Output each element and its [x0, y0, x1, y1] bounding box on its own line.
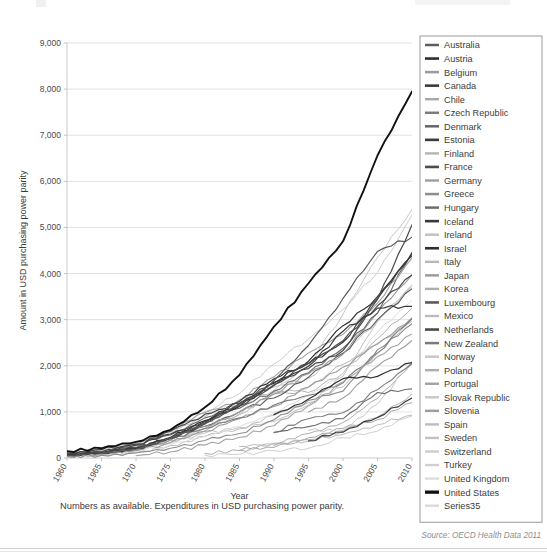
- legend-label: Austria: [444, 54, 473, 64]
- chart-footnote: Numbers as available. Expenditures in US…: [60, 501, 344, 511]
- legend-label: Slovenia: [444, 406, 480, 416]
- series-line: [67, 322, 412, 457]
- y-axis-tick-label: 3,000: [40, 315, 62, 325]
- bottom-divider: [0, 548, 547, 549]
- legend-label: France: [444, 162, 473, 172]
- y-axis-tick-label: 9,000: [40, 38, 62, 48]
- legend-label: Netherlands: [444, 325, 494, 335]
- x-axis-tick-label: 1975: [154, 462, 172, 484]
- legend-label: Poland: [444, 366, 473, 376]
- x-axis-tick-label: 2000: [327, 462, 345, 484]
- legend-label: Italy: [444, 257, 461, 267]
- legend-label: Series35: [444, 501, 480, 511]
- legend-label: Canada: [444, 81, 477, 91]
- legend-label: Germany: [444, 176, 482, 186]
- legend-label: New Zealand: [444, 339, 498, 349]
- series-line: [67, 306, 412, 456]
- y-axis-title: Amount in USD purchasing power parity: [18, 170, 28, 331]
- bottom-divider-secondary: [0, 551, 547, 552]
- legend-label: Norway: [444, 352, 476, 362]
- legend-label: Czech Republic: [444, 108, 509, 118]
- legend-label: Australia: [444, 40, 481, 50]
- y-axis-tick-label: 0: [56, 453, 61, 463]
- y-axis-tick-label: 2,000: [40, 361, 62, 371]
- legend-label: Korea: [444, 284, 469, 294]
- legend-label: Belgium: [444, 68, 478, 78]
- x-axis-tick-label: 1990: [258, 462, 276, 484]
- y-axis-tick-label: 1,000: [40, 407, 62, 417]
- y-axis-tick-label: 5,000: [40, 222, 62, 232]
- x-axis-tick-label: 1995: [292, 462, 310, 484]
- x-axis-title: Year: [230, 491, 248, 501]
- legend-label: United States: [444, 488, 500, 498]
- legend-label: United Kingdom: [444, 474, 510, 484]
- x-axis-tick-label: 1965: [85, 462, 103, 484]
- x-axis-tick-label: 1960: [51, 462, 69, 484]
- legend-label: Chile: [444, 95, 465, 105]
- y-axis-tick-label: 7,000: [40, 130, 62, 140]
- legend-label: Denmark: [444, 122, 482, 132]
- legend-label: Turkey: [444, 460, 472, 470]
- legend-label: Greece: [444, 189, 474, 199]
- x-axis-tick-label: 1970: [120, 462, 138, 484]
- x-axis-tick-label: 1985: [223, 462, 241, 484]
- legend-label: Spain: [444, 420, 468, 430]
- series-group: [67, 91, 412, 457]
- chart-source: Source: OECD Health Data 2011: [421, 531, 541, 540]
- line-chart-canvas: 01,0002,0003,0004,0005,0006,0007,0008,00…: [0, 0, 547, 554]
- y-axis-tick-label: 4,000: [40, 269, 62, 279]
- legend-label: Portugal: [444, 379, 478, 389]
- legend-label: Japan: [444, 271, 469, 281]
- legend-label: Switzerland: [444, 447, 492, 457]
- legend-label: Slovak Republic: [444, 393, 510, 403]
- y-axis-tick-label: 8,000: [40, 84, 62, 94]
- legend-label: Israel: [444, 244, 466, 254]
- chart-figure: 01,0002,0003,0004,0005,0006,0007,0008,00…: [0, 0, 547, 554]
- y-axis-tick-label: 6,000: [40, 176, 62, 186]
- legend-label: Ireland: [444, 230, 472, 240]
- series-line: [67, 91, 412, 452]
- legend-label: Mexico: [444, 311, 473, 321]
- x-axis-tick-label: 2010: [396, 462, 414, 484]
- legend-label: Iceland: [444, 217, 474, 227]
- legend-label: Finland: [444, 149, 474, 159]
- series-line: [67, 225, 412, 456]
- legend-label: Sweden: [444, 433, 477, 443]
- series-line: [309, 340, 413, 411]
- legend-label: Luxembourg: [444, 298, 495, 308]
- legend-label: Estonia: [444, 135, 476, 145]
- x-axis-tick-label: 1980: [189, 462, 207, 484]
- x-axis-tick-label: 2005: [361, 462, 379, 484]
- legend-label: Hungary: [444, 203, 479, 213]
